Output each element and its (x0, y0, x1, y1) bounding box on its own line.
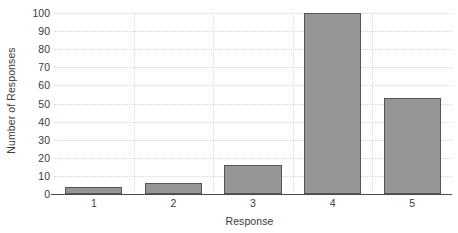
y-axis-tick-label: 70 (4, 61, 50, 73)
y-axis-tick-label: 30 (4, 134, 50, 146)
x-axis-tick-label: 3 (250, 197, 256, 209)
bar-5[interactable] (384, 98, 441, 194)
y-axis-tick-label: 40 (4, 116, 50, 128)
plot-area (54, 13, 452, 194)
bars-group (54, 13, 452, 194)
x-axis-tick-labels: 12345 (54, 197, 452, 213)
y-axis-tick-label: 50 (4, 98, 50, 110)
x-axis-tick-label: 1 (91, 197, 97, 209)
x-axis-line (54, 194, 452, 195)
y-axis-tick-label: 100 (4, 7, 50, 19)
y-axis-zero-tick (51, 194, 55, 195)
y-axis-tick-label: 0 (4, 188, 50, 200)
y-axis-tick-label: 60 (4, 79, 50, 91)
x-axis-tick-label: 2 (170, 197, 176, 209)
bar-2[interactable] (145, 183, 202, 194)
y-axis-tick-label: 20 (4, 152, 50, 164)
bar-4[interactable] (304, 13, 361, 194)
y-axis-tick-label: 90 (4, 25, 50, 37)
y-axis-tick-labels: 0102030405060708090100 (0, 13, 50, 194)
x-axis-tick-label: 5 (409, 197, 415, 209)
y-axis-tick-label: 10 (4, 170, 50, 182)
x-axis-tick-label: 4 (330, 197, 336, 209)
bar-chart: Number of Responses 01020304050607080901… (0, 0, 458, 233)
y-axis-tick-label: 80 (4, 43, 50, 55)
x-axis-title: Response (47, 215, 452, 227)
bar-1[interactable] (65, 187, 122, 194)
bar-3[interactable] (224, 165, 281, 194)
